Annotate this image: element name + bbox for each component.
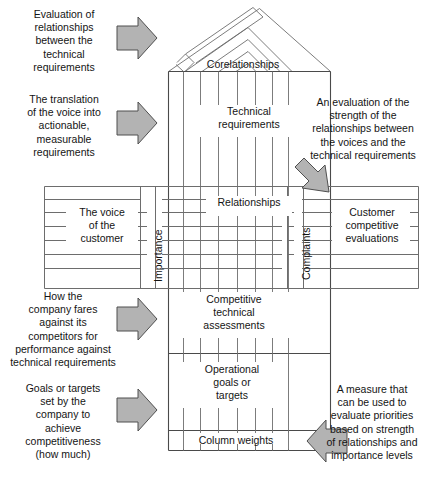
arrow-right-corelationships <box>117 17 157 59</box>
annotation-technical-requirements: The translation of the voice into action… <box>8 93 120 159</box>
annotation-operational-goals: Goals or targets set by the company to a… <box>10 382 116 461</box>
label-competitive-technical-assessments: Competitive technical assessments <box>178 293 290 333</box>
annotation-competitive-technical-assessments: How the company fares against its compet… <box>2 290 124 369</box>
label-importance: Importance <box>152 229 164 282</box>
label-customer-competitive-evaluations: Customer competitive evaluations <box>330 206 414 246</box>
label-complaints: Complaints <box>300 227 312 280</box>
label-operational-goals-or-targets: Operational goals or targets <box>180 363 284 403</box>
label-relationships: Relationships <box>206 196 292 209</box>
arrow-right-operational-goals <box>117 389 157 431</box>
annotation-relationships: An evaluation of the strength of the rel… <box>299 96 427 162</box>
annotation-column-weights: A measure that can be used to evaluate p… <box>316 383 428 462</box>
label-corelationships: Corelationships <box>176 58 310 71</box>
annotation-corelationships: Evaluation of relationships between the … <box>14 8 114 74</box>
arrow-right-technical-requirements <box>117 102 157 144</box>
label-voice-of-the-customer: The voice of the customer <box>64 206 140 246</box>
label-column-weights: Column weights <box>181 434 291 447</box>
house-of-quality-diagram: Corelationships Technical requirements R… <box>0 0 431 477</box>
label-technical-requirements: Technical requirements <box>196 105 302 131</box>
